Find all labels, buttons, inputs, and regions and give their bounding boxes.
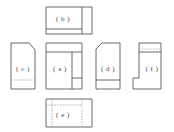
view-b-outline [46,7,92,34]
view-a-outline [46,43,82,89]
view-d-outline [96,43,120,89]
view-e [46,99,92,127]
orthographic-views-svg [0,0,174,132]
view-f [133,43,161,89]
view-b [46,7,92,34]
view-c-outline [11,43,35,89]
view-d [96,43,120,89]
drawing-sheet: ( b )( c )( a )( d )( f )( e ) [0,0,174,132]
view-a [46,43,82,89]
view-e-outline [46,99,92,127]
view-c [11,43,35,89]
view-f-outline [133,43,161,89]
